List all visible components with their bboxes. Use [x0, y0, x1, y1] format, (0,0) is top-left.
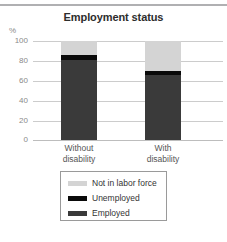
y-tick-label-20: 20	[0, 116, 28, 125]
chart-legend: Not in labor force Unemployed Employed	[60, 171, 167, 221]
y-tick-label-80: 80	[0, 56, 28, 65]
legend-swatch-employed	[68, 211, 87, 216]
y-tick-label-0: 0	[0, 135, 28, 144]
y-tick-label-100: 100	[0, 36, 28, 45]
legend-swatch-unemployed	[68, 196, 87, 201]
legend-item-unemployed[interactable]: Unemployed	[68, 191, 140, 205]
legend-item-employed[interactable]: Employed	[68, 206, 130, 220]
legend-label-employed: Employed	[92, 208, 130, 218]
bar-segment-not-in-labor-force	[145, 41, 181, 71]
bar-segment-not-in-labor-force	[61, 41, 97, 55]
legend-swatch-not-in-labor-force	[68, 181, 87, 186]
x-tick-line-1: With	[124, 143, 202, 154]
axis-baseline-0	[33, 140, 223, 141]
bar-segment-employed	[145, 75, 181, 140]
x-tick-line-1: Without	[40, 143, 118, 154]
legend-label-not-in-labor-force: Not in labor force	[92, 178, 157, 188]
x-tick-label-without-disability: Without disability	[40, 143, 118, 164]
legend-label-unemployed: Unemployed	[92, 193, 140, 203]
bar-segment-employed	[61, 60, 97, 140]
x-tick-line-2: disability	[124, 154, 202, 165]
y-tick-label-60: 60	[0, 76, 28, 85]
x-tick-label-with-disability: With disability	[124, 143, 202, 164]
bar-without-disability[interactable]	[61, 41, 97, 140]
y-tick-label-40: 40	[0, 96, 28, 105]
bar-with-disability[interactable]	[145, 41, 181, 140]
legend-item-not-in-labor-force[interactable]: Not in labor force	[68, 176, 157, 190]
x-tick-line-2: disability	[40, 154, 118, 165]
